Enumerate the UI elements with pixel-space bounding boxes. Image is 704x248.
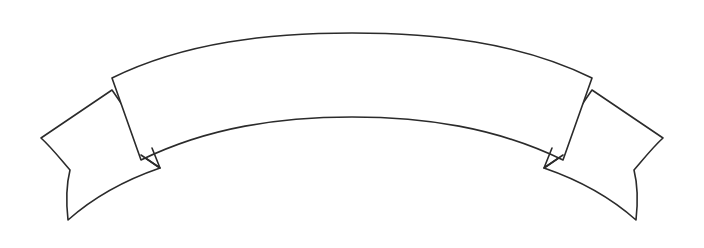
banner-artwork-canvas [0, 0, 704, 248]
banner-ribbon-illustration [0, 0, 704, 248]
